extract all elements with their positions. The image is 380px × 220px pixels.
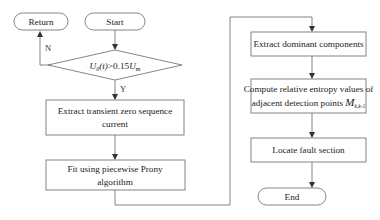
start-label: Start <box>106 17 124 27</box>
node-extract-dominant: Extract dominant components <box>251 32 366 56</box>
extract-transient-line2: current <box>102 119 128 129</box>
edge-label-no: N <box>45 43 51 53</box>
locate-fault-label: Locate fault section <box>272 145 345 155</box>
end-label: End <box>285 192 300 202</box>
compute-entropy-line2: adjacent detection points Mk,k-1 <box>252 96 366 109</box>
node-fit-prony: Fit using piecewise Prony algorithm <box>46 160 185 190</box>
fit-prony-line1: Fit using piecewise Prony <box>67 164 163 174</box>
edge-label-yes: Y <box>120 84 126 94</box>
return-label: Return <box>28 17 53 27</box>
flowchart-canvas: N Y Return Start U0(t)>0.15Um Extract tr… <box>0 0 380 220</box>
node-end: End <box>258 188 326 205</box>
node-return: Return <box>14 13 68 30</box>
extract-transient-line1: Extract transient zero sequence <box>58 106 173 116</box>
node-locate-fault: Locate fault section <box>251 138 366 162</box>
extract-dominant-label: Extract dominant components <box>253 39 364 49</box>
node-start: Start <box>85 13 145 30</box>
fit-prony-line2: algorithm <box>97 177 133 187</box>
node-extract-transient: Extract transient zero sequence current <box>46 100 184 135</box>
node-decision: U0(t)>0.15Um <box>48 50 182 80</box>
node-compute-entropy: Compute relative entropy values of adjac… <box>244 79 375 113</box>
compute-entropy-line1: Compute relative entropy values of <box>244 84 375 94</box>
